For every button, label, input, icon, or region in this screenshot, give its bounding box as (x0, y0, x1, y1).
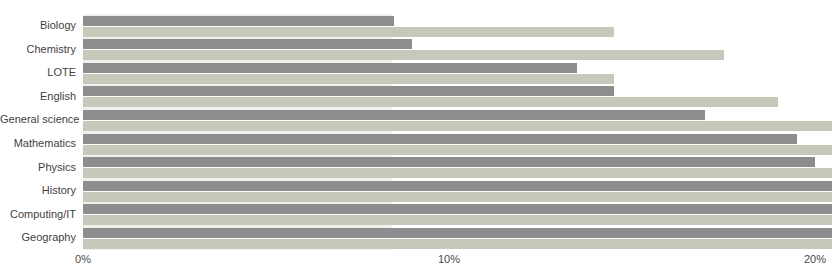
bar-2013-general-science (83, 110, 705, 121)
bar-row-biology (83, 14, 390, 38)
bar-2010-chemistry (83, 50, 724, 60)
bar-2010-physics (83, 168, 832, 178)
bar-2013-chemistry (83, 39, 412, 50)
x-axis: 0%10%20%30%40%50% (83, 253, 391, 267)
bar-2013-geography (83, 228, 832, 239)
bar-2013-english (83, 86, 614, 97)
bar-2013-mathematics (83, 134, 797, 145)
category-label-physics: Physics (0, 156, 76, 180)
x-tick-10pct: 10% (438, 253, 460, 265)
category-label-biology: Biology (0, 14, 76, 38)
bar-2010-lote (83, 74, 614, 84)
bar-row-mathematics (83, 132, 390, 156)
bar-2010-mathematics (83, 145, 832, 155)
bar-row-general-science (83, 108, 390, 132)
bar-2010-english (83, 97, 778, 107)
bar-row-lote (83, 61, 390, 85)
bar-row-geography (83, 226, 390, 250)
bar-row-chemistry (83, 38, 390, 62)
bar-row-english (83, 85, 390, 109)
bar-2013-history (83, 181, 832, 192)
category-label-english: English (0, 85, 76, 109)
plot-area: 2013 2010 (83, 14, 391, 250)
category-labels: BiologyChemistryLOTEEnglishGeneral scien… (0, 14, 78, 250)
bar-2013-physics (83, 157, 815, 168)
category-label-geography: Geography (0, 226, 76, 250)
x-tick-0pct: 0% (75, 253, 91, 265)
bar-2010-computing-it (83, 215, 832, 225)
bar-row-history (83, 179, 390, 203)
category-label-computing-it: Computing/IT (0, 203, 76, 227)
category-label-history: History (0, 179, 76, 203)
bar-2010-general-science (83, 121, 832, 131)
category-label-chemistry: Chemistry (0, 38, 76, 62)
bar-2010-history (83, 192, 832, 202)
bar-2013-biology (83, 16, 394, 27)
bar-2013-lote (83, 63, 577, 74)
bar-2010-biology (83, 27, 614, 37)
bar-2013-computing-it (83, 204, 832, 215)
category-label-mathematics: Mathematics (0, 132, 76, 156)
bar-2010-geography (83, 239, 832, 249)
bar-row-physics (83, 156, 390, 180)
category-label-general-science: General science (0, 108, 76, 132)
bar-row-computing-it (83, 203, 390, 227)
x-tick-20pct: 20% (804, 253, 826, 265)
category-label-lote: LOTE (0, 61, 76, 85)
